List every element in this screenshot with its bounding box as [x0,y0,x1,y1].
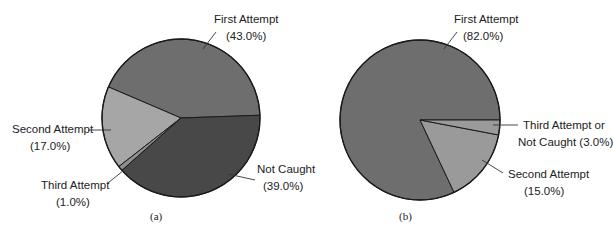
label-first-attempt-b: First Attempt [454,13,519,25]
label-not-caught-a: Not Caught [257,163,316,175]
label-first-attempt-pct-a: (43.0%) [226,30,266,42]
label-second-attempt-a: Second Attempt [12,123,94,135]
label-second-attempt-pct-a: (17.0%) [30,140,70,152]
label-first-attempt-pct-b: (82.0%) [463,30,503,42]
caption-b: (b) [399,210,412,223]
label-third-attempt-a: Third Attempt [41,179,110,191]
caption-a: (a) [150,210,163,223]
label-second-attempt-pct-b: (15.0%) [524,185,564,197]
pie-chart-b [340,40,500,200]
label-first-attempt-a: First Attempt [214,13,279,25]
label-third-attempt-pct-a: (1.0%) [56,196,90,208]
leader-third-a [108,170,124,183]
pie-charts-figure: First Attempt (43.0%) Second Attempt (17… [0,0,613,235]
label-third-attempt-b-line1: Third Attempt or [523,119,605,131]
label-second-attempt-b: Second Attempt [508,168,590,180]
pie-chart-a [102,39,260,197]
label-third-attempt-b-line2: Not Caught (3.0%) [518,136,613,148]
label-not-caught-pct-a: (39.0%) [263,180,303,192]
